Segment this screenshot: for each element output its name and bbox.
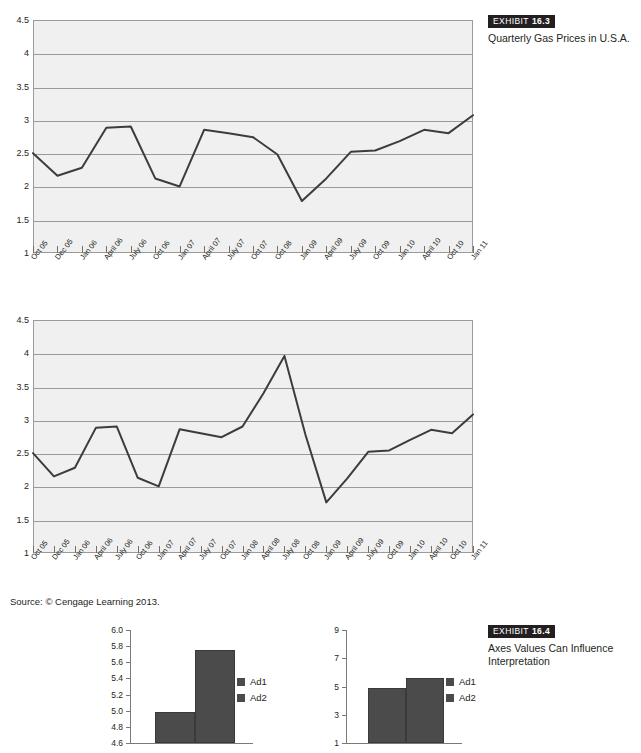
y-axis-tick-label: 2 [3,181,29,191]
y-axis-tick [126,711,131,712]
y-axis-tick-label: 2.5 [3,148,29,158]
bar-ad2 [195,650,235,743]
bar-chart-narrow-axis: 4.64.85.05.25.45.65.86.0 [100,622,230,746]
legend-item-ad1: Ad1 [237,676,267,687]
y-axis-tick [126,727,131,728]
y-axis-tick-label: 5.0 [101,706,123,716]
legend-item-ad2: Ad2 [446,692,476,703]
exhibit-16-3-caption: EXHIBIT16.3 Quarterly Gas Prices in U.S.… [488,10,641,45]
y-axis-tick-label: 5.2 [101,690,123,700]
legend-swatch-ad1 [446,678,454,686]
y-axis-tick [126,678,131,679]
y-axis-tick-label: 1.5 [3,215,29,225]
legend-label-ad2: Ad2 [459,692,476,703]
y-axis-tick-label: 5.4 [101,673,123,683]
legend-label-ad1: Ad1 [459,676,476,687]
y-axis-tick-label: 3 [317,710,339,720]
exhibit-16-4-caption: EXHIBIT16.4 Axes Values Can Influence In… [488,620,641,668]
y-axis-tick [342,687,347,688]
line-chart-gas-prices-1: 11.522.533.544.5Oct 05Dec 05Jan 06April … [0,0,480,305]
y-axis-tick [126,743,131,744]
exhibit-16-4-tag: EXHIBIT16.4 [488,625,555,638]
exhibit-16-4-title-line2: Interpretation [488,655,550,667]
line-chart-gas-prices-2: 11.522.533.544.5Oct 05Dec 05Jan 06April … [0,308,480,598]
y-axis-tick-label: 5.6 [101,657,123,667]
y-axis-tick [126,646,131,647]
y-axis-tick-label: 1 [317,738,339,748]
y-axis-tick [342,630,347,631]
y-axis-tick-label: 3 [3,415,29,425]
legend-label-ad2: Ad2 [250,692,267,703]
y-axis-tick-label: 4.5 [3,315,29,325]
exhibit-16-3-title: Quarterly Gas Prices in U.S.A. [488,32,641,45]
y-axis-tick-label: 4.5 [3,15,29,25]
exhibit-tag-number: 16.3 [532,16,550,26]
source-note: Source: © Cengage Learning 2013. [10,596,160,607]
series-line [33,20,473,253]
legend-wide-axis: Ad1 Ad2 [446,676,476,708]
y-axis-tick-label: 2 [3,481,29,491]
y-axis-tick [342,715,347,716]
exhibit-16-3-tag: EXHIBIT16.3 [488,15,555,28]
y-axis-tick [342,658,347,659]
y-axis-tick-label: 5.8 [101,641,123,651]
y-axis-tick-label: 1.5 [3,515,29,525]
y-axis-tick-label: 3 [3,115,29,125]
legend-item-ad2: Ad2 [237,692,267,703]
y-axis-tick-label: 4.8 [101,722,123,732]
series-line [33,320,473,553]
y-axis-tick-label: 3.5 [3,382,29,392]
page-root: EXHIBIT16.3 Quarterly Gas Prices in U.S.… [0,0,641,753]
bar-ad1 [368,688,406,743]
y-axis-tick [126,695,131,696]
y-axis-tick-label: 4.6 [101,738,123,748]
y-axis-tick [126,662,131,663]
legend-label-ad1: Ad1 [250,676,267,687]
y-axis-tick [342,743,347,744]
y-axis-tick-label: 9 [317,625,339,635]
bar-ad1 [155,712,195,743]
y-axis-tick-label: 4 [3,348,29,358]
x-axis-line [346,743,462,744]
exhibit-16-4-title: Axes Values Can Influence Interpretation [488,642,641,668]
x-axis-line [130,743,253,744]
y-axis-tick-label: 4 [3,48,29,58]
y-axis-tick-label: 3.5 [3,82,29,92]
legend-swatch-ad2 [446,694,454,702]
legend-item-ad1: Ad1 [446,676,476,687]
legend-swatch-ad2 [237,694,245,702]
y-axis-tick-label: 7 [317,653,339,663]
legend-swatch-ad1 [237,678,245,686]
exhibit-16-4-title-line1: Axes Values Can Influence [488,642,613,654]
y-axis-tick-label: 6.0 [101,625,123,635]
bar-ad2 [406,678,444,743]
y-axis-tick-label: 1 [3,248,29,258]
exhibit-tag-word: EXHIBIT [493,626,529,636]
y-axis-tick-label: 1 [3,548,29,558]
bar-chart-wide-axis: 13579 [318,622,438,746]
y-axis-tick [126,630,131,631]
exhibit-tag-word: EXHIBIT [493,16,529,26]
exhibit-tag-number: 16.4 [532,626,550,636]
y-axis-tick-label: 5 [317,682,339,692]
legend-narrow-axis: Ad1 Ad2 [237,676,267,708]
y-axis-tick-label: 2.5 [3,448,29,458]
